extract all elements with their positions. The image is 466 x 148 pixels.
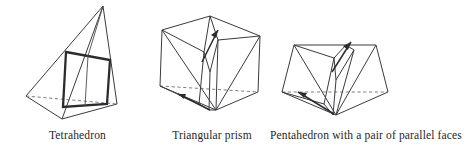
polyhedra-figure: Tetrahedron (0, 0, 466, 148)
prism-arrow-lower-head (178, 94, 186, 99)
prism-outer-edges (160, 16, 260, 110)
pent-wedge-left-edge (324, 58, 334, 104)
pentahedron-outer-edges (282, 45, 388, 115)
edge-apex-right (103, 6, 117, 104)
pent-wedge-mid-edge (333, 80, 336, 115)
edge-left-vertical (160, 30, 162, 86)
tetrahedron-drawing (0, 0, 155, 125)
prism-arrow-upper (202, 30, 218, 62)
triangular-prism-drawing (152, 0, 272, 125)
edge-left (282, 45, 294, 92)
tetrahedron-outer-edges (26, 6, 117, 119)
pent-wedge-right-edge (336, 50, 354, 115)
wedge-to-right-corner (218, 36, 260, 40)
edge-right (376, 45, 388, 92)
caption-triangular-prism: Triangular prism (152, 129, 272, 142)
tetrahedron-interior-edge-lower (85, 56, 88, 106)
figure-tetrahedron: Tetrahedron (0, 0, 155, 148)
tetrahedron-hidden-base-edge (26, 96, 117, 104)
edge-bottom-right (216, 92, 258, 110)
wedge-right-edge (216, 40, 218, 110)
figure-triangular-prism: Triangular prism (152, 0, 272, 148)
edge-left-front (26, 96, 62, 119)
edge-right-front-fold (216, 36, 260, 110)
edge-bottom-right (336, 92, 388, 115)
pent-wedge-to-top-left (294, 45, 334, 58)
edge-bottom-left (282, 92, 336, 115)
caption-tetrahedron: Tetrahedron (0, 129, 155, 142)
pent-arrow-upper-head (343, 42, 351, 50)
pentahedron-drawing (266, 0, 466, 125)
prism-arrow-lower (178, 94, 210, 110)
tetrahedron-interior-edge-upper (88, 6, 103, 56)
figure-pentahedron: Pentahedron with a pair of parallel face… (266, 0, 466, 148)
wedge-to-left-corner (162, 30, 204, 52)
wedge-mid-edge (209, 72, 210, 110)
edge-right-vertical (258, 36, 260, 92)
caption-pentahedron: Pentahedron with a pair of parallel face… (266, 129, 466, 142)
